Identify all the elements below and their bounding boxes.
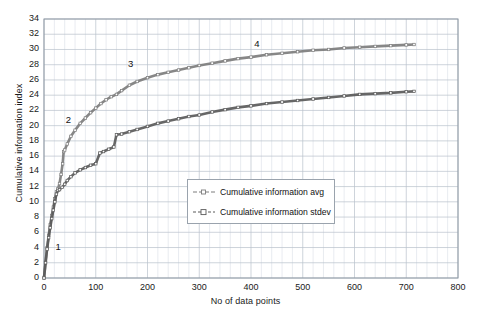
- series-marker: [74, 129, 77, 132]
- series-marker: [237, 57, 240, 60]
- series-marker: [102, 150, 105, 153]
- y-tick-label: 22: [17, 104, 39, 114]
- series-marker: [405, 44, 408, 47]
- series-marker: [52, 209, 55, 212]
- series-marker: [296, 99, 299, 102]
- y-tick-label: 0: [17, 272, 39, 282]
- series-marker: [136, 80, 139, 83]
- series-marker: [63, 149, 65, 152]
- legend-label-stdev: Cumulative information stdev: [220, 207, 331, 217]
- series-marker: [107, 148, 110, 151]
- x-tick-label: 700: [386, 282, 426, 292]
- series-marker: [265, 54, 268, 57]
- series-marker: [157, 73, 160, 76]
- legend-item-avg: Cumulative information avg: [192, 185, 324, 199]
- chart-container: Cumulative information index No of data …: [0, 0, 491, 315]
- series-marker: [167, 71, 170, 74]
- series-marker: [70, 135, 73, 138]
- series-marker: [374, 92, 377, 95]
- series-marker: [327, 48, 330, 51]
- legend-marker-avg: [192, 187, 216, 197]
- series-marker: [89, 164, 92, 167]
- series-marker: [46, 248, 49, 251]
- series-marker: [358, 93, 361, 96]
- series-marker: [250, 105, 253, 108]
- series-marker: [95, 107, 98, 110]
- series-marker: [167, 120, 170, 123]
- series-marker: [58, 182, 61, 185]
- series-marker: [389, 44, 392, 47]
- series-marker: [115, 93, 118, 96]
- series-marker: [211, 62, 214, 65]
- series-marker: [61, 162, 64, 165]
- chart-legend: Cumulative information avg Cumulative in…: [187, 179, 335, 224]
- series-marker: [296, 51, 299, 54]
- series-marker: [389, 92, 392, 95]
- series-marker: [74, 172, 77, 175]
- series-marker: [44, 262, 47, 265]
- series-marker: [60, 173, 63, 176]
- series-marker: [136, 128, 139, 131]
- y-tick-label: 10: [17, 196, 39, 206]
- series-marker: [120, 89, 123, 92]
- series-marker: [265, 102, 268, 105]
- y-tick-label: 18: [17, 135, 39, 145]
- series-marker: [224, 108, 227, 111]
- series-marker: [51, 217, 54, 220]
- x-tick-label: 300: [179, 282, 219, 292]
- y-tick-label: 6: [17, 226, 39, 236]
- series-marker: [79, 122, 82, 125]
- series-marker: [177, 69, 180, 72]
- x-tick-label: 0: [24, 282, 64, 292]
- series-marker: [128, 84, 131, 87]
- curve-annotation-3: 3: [128, 58, 133, 69]
- series-marker: [327, 96, 330, 99]
- series-marker: [281, 52, 284, 55]
- y-tick-label: 8: [17, 211, 39, 221]
- series-marker: [47, 236, 50, 239]
- y-tick-label: 2: [17, 257, 39, 267]
- series-marker: [374, 45, 377, 48]
- y-tick-label: 24: [17, 89, 39, 99]
- legend-label-avg: Cumulative information avg: [220, 187, 324, 197]
- series-marker: [58, 188, 61, 191]
- series-marker: [63, 183, 65, 186]
- series-marker: [54, 201, 57, 204]
- series-marker: [413, 43, 416, 46]
- series-marker: [224, 60, 227, 63]
- y-tick-label: 32: [17, 28, 39, 38]
- series-marker: [84, 117, 87, 120]
- series-marker: [70, 175, 73, 178]
- series-marker: [55, 193, 58, 196]
- series-marker: [95, 162, 98, 165]
- series-marker: [128, 130, 131, 133]
- series-marker: [100, 102, 103, 105]
- series-marker: [146, 125, 149, 128]
- series-marker: [250, 56, 253, 59]
- series-marker: [43, 277, 46, 280]
- y-tick-label: 20: [17, 120, 39, 130]
- series-marker: [49, 226, 52, 229]
- x-tick-label: 200: [128, 282, 168, 292]
- series-marker: [177, 118, 180, 121]
- series-marker: [312, 98, 315, 101]
- legend-item-stdev: Cumulative information stdev: [192, 205, 331, 219]
- series-marker: [99, 152, 102, 155]
- x-tick-label: 400: [231, 282, 271, 292]
- series-marker: [237, 106, 240, 109]
- y-tick-label: 34: [17, 13, 39, 23]
- y-tick-label: 28: [17, 59, 39, 69]
- series-marker: [157, 122, 160, 125]
- curve-annotation-1: 1: [55, 241, 60, 252]
- legend-marker-stdev: [192, 207, 216, 217]
- series-marker: [105, 99, 108, 102]
- series-marker: [413, 90, 416, 93]
- series-marker: [281, 101, 284, 104]
- series-marker: [113, 146, 116, 149]
- series-marker: [188, 67, 191, 70]
- series-marker: [79, 169, 82, 172]
- curve-annotation-2: 2: [66, 114, 71, 125]
- series-marker: [84, 166, 87, 169]
- x-tick-label: 600: [335, 282, 375, 292]
- y-tick-label: 14: [17, 165, 39, 175]
